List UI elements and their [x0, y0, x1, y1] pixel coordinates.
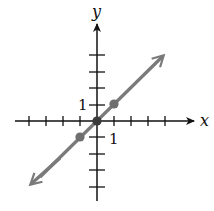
y-axis	[89, 24, 105, 201]
x-tick-label-1: 1	[109, 130, 119, 148]
point-origin	[92, 116, 101, 125]
point-1-1	[109, 99, 118, 108]
graph-line-lower-extension	[31, 158, 60, 184]
x-axis	[15, 116, 194, 126]
point-neg1-neg1	[75, 132, 84, 141]
y-tick-label-1: 1	[78, 96, 88, 114]
coordinate-plane: y x 1 1	[0, 0, 214, 211]
y-axis-label: y	[91, 2, 102, 21]
x-axis-label: x	[200, 111, 209, 130]
